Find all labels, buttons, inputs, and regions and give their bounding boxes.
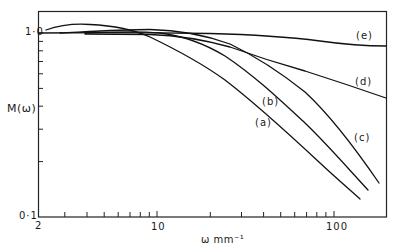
x-axis-ticks xyxy=(65,211,334,217)
x-tick-label-10: 10 xyxy=(151,221,166,232)
curve-a xyxy=(46,24,360,199)
curve-label-c: (c) xyxy=(354,132,370,143)
x-tick-label-2: 2 xyxy=(35,220,42,231)
y-tick-label-1-0: 1·0 xyxy=(25,26,44,37)
curve-label-a: (a) xyxy=(255,117,272,128)
chart-canvas xyxy=(0,0,397,252)
x-axis-label: ω mm⁻¹ xyxy=(201,234,244,245)
curve-label-d: (d) xyxy=(355,76,372,87)
curve-b xyxy=(85,32,368,190)
y-axis-label: M(ω) xyxy=(7,102,36,115)
x-tick-label-100: 100 xyxy=(326,221,348,232)
curve-label-b: (b) xyxy=(262,96,279,107)
y-axis-ticks xyxy=(39,33,44,162)
curve-label-e: (e) xyxy=(356,30,373,41)
